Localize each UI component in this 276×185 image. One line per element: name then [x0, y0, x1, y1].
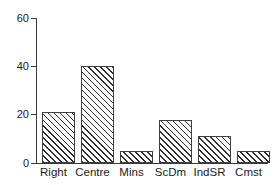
- bar-scdm: [159, 120, 192, 164]
- bar-cmst: [237, 151, 270, 163]
- y-tick-label-20: 20: [0, 109, 29, 120]
- y-tick-mark-60: [31, 18, 36, 19]
- x-axis-line: [36, 163, 268, 164]
- y-tick-label-40: 40: [0, 61, 29, 72]
- y-tick-label-60: 60: [0, 13, 29, 24]
- bar-mins: [120, 151, 153, 163]
- bar-centre: [81, 66, 114, 163]
- y-tick-mark-0: [31, 163, 36, 164]
- x-tick-label-cmst: Cmst: [222, 166, 275, 179]
- y-tick-label-0: 0: [0, 158, 29, 169]
- bar-right: [42, 112, 75, 163]
- bar-indsr: [198, 136, 231, 163]
- y-tick-mark-20: [31, 114, 36, 115]
- y-tick-mark-40: [31, 66, 36, 67]
- bar-chart: 60 40 20 0 Right Centre Mins ScDm IndSR …: [0, 0, 276, 185]
- bar-series: [37, 18, 268, 163]
